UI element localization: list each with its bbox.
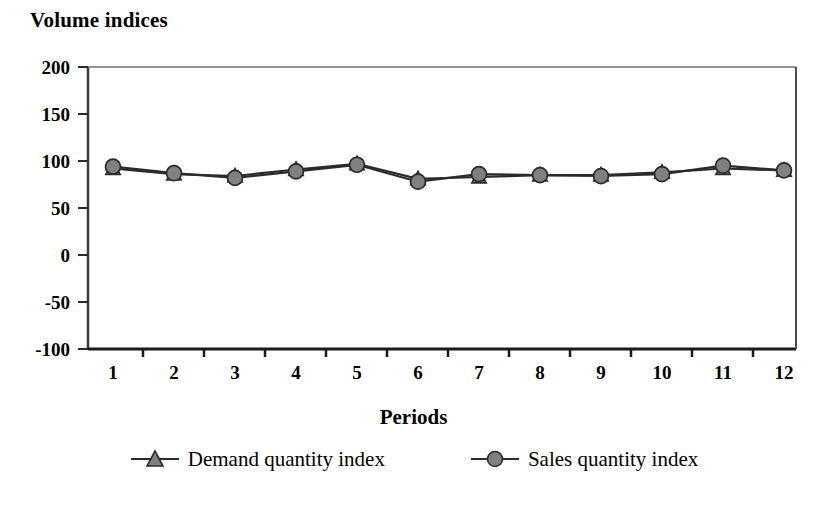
data-point-marker-triangle <box>716 161 730 174</box>
x-axis-tick-label-7: 7 <box>459 363 499 382</box>
data-point-marker-circle <box>777 163 792 178</box>
triangle-marker-icon <box>129 448 181 470</box>
data-point-marker-triangle <box>350 156 364 169</box>
data-series-layer <box>106 156 792 189</box>
x-axis-tick-label-3: 3 <box>215 363 255 382</box>
data-point-marker-circle <box>716 158 731 173</box>
data-point-marker-circle <box>533 168 548 183</box>
legend-label-demand-quantity-index: Demand quantity index <box>188 449 385 470</box>
data-point-marker-circle <box>594 169 609 184</box>
data-point-marker-triangle <box>594 168 608 181</box>
data-point-marker-triangle <box>106 161 120 174</box>
data-point-marker-circle <box>350 157 365 172</box>
legend-label-sales-quantity-index: Sales quantity index <box>528 449 698 470</box>
data-point-marker-triangle <box>411 171 425 184</box>
y-axis-tick-label-200: 200 <box>8 58 70 77</box>
y-axis-tick-label-0: 0 <box>8 246 70 265</box>
x-axis-tick-label-12: 12 <box>764 363 804 382</box>
chart-legend: Demand quantity index Sales quantity ind… <box>0 448 827 470</box>
data-point-marker-triangle <box>655 165 669 178</box>
data-point-marker-circle <box>655 167 670 182</box>
legend-item-sales-quantity-index[interactable]: Sales quantity index <box>469 448 698 470</box>
data-point-marker-triangle <box>777 163 791 176</box>
volume-indices-chart: Volume indices 200 150 100 50 0 -50 -100… <box>0 0 827 508</box>
data-point-marker-circle <box>411 174 426 189</box>
data-point-marker-circle <box>472 167 487 182</box>
legend-item-demand-quantity-index[interactable]: Demand quantity index <box>129 448 385 470</box>
y-axis-tick-label-100: 100 <box>8 152 70 171</box>
chart-title: Volume indices <box>30 8 168 33</box>
data-point-marker-triangle <box>472 169 486 182</box>
data-point-marker-circle <box>167 166 182 181</box>
data-point-marker-triangle <box>289 162 303 175</box>
data-point-marker-triangle <box>167 167 181 180</box>
data-point-marker-triangle <box>228 169 242 182</box>
y-axis-tick-label-neg100: -100 <box>8 340 70 359</box>
x-axis-tick-label-9: 9 <box>581 363 621 382</box>
x-axis-tick-label-8: 8 <box>520 363 560 382</box>
x-axis-tick-label-6: 6 <box>398 363 438 382</box>
data-point-marker-circle <box>106 159 121 174</box>
axes <box>78 67 796 357</box>
x-axis-tick-label-4: 4 <box>276 363 316 382</box>
data-point-marker-circle <box>228 170 243 185</box>
y-axis-tick-label-150: 150 <box>8 105 70 124</box>
x-axis-title: Periods <box>0 405 827 430</box>
x-axis-tick-label-2: 2 <box>154 363 194 382</box>
x-axis-ticks <box>143 349 753 357</box>
circle-marker-icon <box>469 448 521 470</box>
x-axis-tick-label-11: 11 <box>703 363 743 382</box>
series-demand-quantity-index <box>106 156 791 184</box>
y-axis-ticks <box>78 67 88 349</box>
x-axis-tick-label-1: 1 <box>93 363 133 382</box>
x-axis-tick-label-10: 10 <box>642 363 682 382</box>
plot-area <box>0 0 827 508</box>
data-point-marker-circle <box>289 164 304 179</box>
series-sales-quantity-index <box>106 157 792 189</box>
data-point-marker-triangle <box>533 168 547 181</box>
x-axis-tick-label-5: 5 <box>337 363 377 382</box>
y-axis-tick-label-50: 50 <box>8 199 70 218</box>
y-axis-tick-label-neg50: -50 <box>8 293 70 312</box>
series-line <box>113 165 784 182</box>
series-line <box>113 164 784 179</box>
